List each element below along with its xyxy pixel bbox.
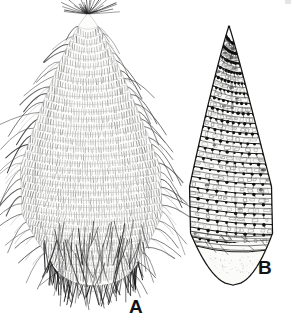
scan-artifact xyxy=(285,0,291,4)
panel-label-a: A xyxy=(129,297,143,316)
panel-label-b: B xyxy=(258,258,272,277)
figure-plate xyxy=(0,0,292,330)
